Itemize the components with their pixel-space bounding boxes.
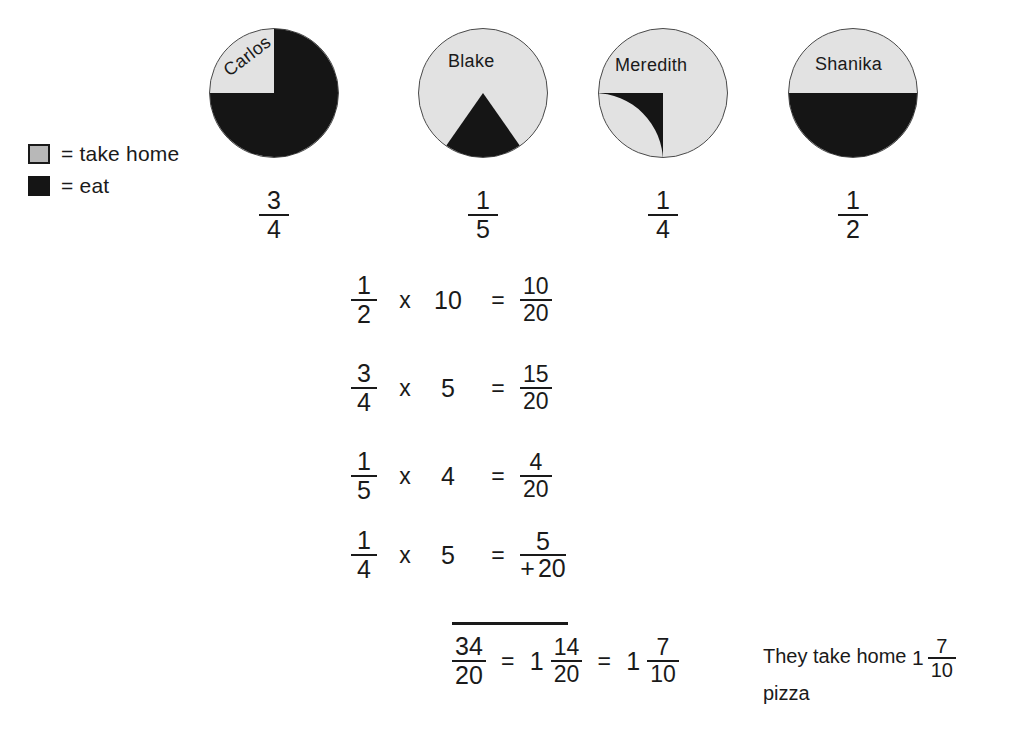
answer-line: 34 20 = 1 14 20 = 1 7 10 xyxy=(452,634,679,688)
equation-row-1: 1 2 x 10 = 10 20 xyxy=(338,256,566,344)
fraction-denominator: 2 xyxy=(843,216,863,242)
equation-denominator: 2 xyxy=(354,301,374,327)
fraction-denominator: 4 xyxy=(653,216,673,242)
mixed-number-1: 1 14 20 xyxy=(530,636,583,686)
fraction-numerator: 1 xyxy=(653,188,673,214)
sentence-lead: They take home xyxy=(763,645,906,667)
pie-slices-blake xyxy=(419,29,547,157)
equation-denominator: 5 xyxy=(354,477,374,503)
multiply-sign: x xyxy=(390,287,420,314)
slice-eat-shanika xyxy=(789,93,917,157)
black-square-icon xyxy=(28,176,50,196)
sum-numerator: 34 xyxy=(452,634,486,660)
pie-slices-shanika xyxy=(789,29,917,157)
legend-item-take-home: = take home xyxy=(28,138,179,170)
multiply-sign: x xyxy=(390,542,420,569)
fraction-numerator: 1 xyxy=(473,188,493,214)
pie-chart-shanika: Shanika xyxy=(788,28,918,158)
equation-numerator: 1 xyxy=(354,449,374,475)
equals-sign-2: = xyxy=(582,648,626,675)
slice-eat-meredith xyxy=(599,93,663,157)
multiply-sign: x xyxy=(390,463,420,490)
equation-factor: 4 xyxy=(420,462,476,491)
equation-denominator: 4 xyxy=(354,556,374,582)
pie-group-shanika: Shanika 1 2 xyxy=(788,28,918,158)
equals-sign: = xyxy=(476,287,520,314)
legend: = take home = eat xyxy=(28,138,179,202)
pie-fraction-carlos: 3 4 xyxy=(209,188,339,242)
pie-fraction-shanika: 1 2 xyxy=(788,188,918,242)
pie-chart-blake: Blake xyxy=(418,28,548,158)
equation-row-2: 3 4 x 5 = 15 20 xyxy=(338,344,566,432)
worksheet-canvas: = take home = eat Carlos 3 4 xyxy=(0,0,1012,730)
sum-rule-line xyxy=(452,622,568,625)
sentence-denominator: 10 xyxy=(928,659,956,680)
equation-row-4: 1 4 x 5 = 5 + 20 xyxy=(338,520,566,590)
plus-sign: + xyxy=(520,556,535,581)
addend-stack: 5 + 20 xyxy=(520,529,566,581)
fraction-numerator: 3 xyxy=(264,188,284,214)
gray-square-icon xyxy=(28,144,50,164)
pie-fraction-blake: 1 5 xyxy=(418,188,548,242)
pie-chart-meredith: Meredith xyxy=(598,28,728,158)
sentence-whole: 1 xyxy=(912,645,924,671)
multiply-sign: x xyxy=(390,375,420,402)
equation-numerator: 1 xyxy=(354,273,374,299)
mixed-numerator: 7 xyxy=(654,636,673,660)
equation-factor: 5 xyxy=(420,541,476,570)
pie-label-shanika: Shanika xyxy=(815,54,882,75)
mixed-whole: 1 xyxy=(530,647,544,676)
equals-sign: = xyxy=(476,463,520,490)
pie-label-meredith: Meredith xyxy=(615,55,687,76)
equals-sign: = xyxy=(476,375,520,402)
equation-list: 1 2 x 10 = 10 20 3 4 x 5 = 15 xyxy=(338,256,566,590)
slice-eat-blake xyxy=(444,93,523,157)
result-numerator: 15 xyxy=(520,363,552,387)
sentence-numerator: 7 xyxy=(933,636,950,657)
pie-label-blake: Blake xyxy=(448,51,495,72)
equals-sign-1: = xyxy=(486,648,530,675)
mixed-denominator: 20 xyxy=(551,662,583,686)
sum-denominator: 20 xyxy=(452,662,486,688)
pie-fraction-meredith: 1 4 xyxy=(598,188,728,242)
result-denominator: 20 xyxy=(520,477,552,501)
result-denominator: 20 xyxy=(520,301,552,325)
equation-factor: 10 xyxy=(420,286,476,315)
legend-label-take-home: = take home xyxy=(61,142,179,166)
pie-group-meredith: Meredith 1 4 xyxy=(598,28,728,158)
mixed-denominator: 10 xyxy=(647,662,679,686)
result-numerator: 4 xyxy=(526,451,545,475)
answer-sentence: They take home 1 7 10 pizza xyxy=(763,636,1012,706)
pie-chart-carlos: Carlos xyxy=(209,28,339,158)
mixed-number-2: 1 7 10 xyxy=(626,636,679,686)
fraction-denominator: 5 xyxy=(473,216,493,242)
result-denominator: 20 xyxy=(520,389,552,413)
result-numerator: 5 xyxy=(536,529,550,554)
legend-label-eat: = eat xyxy=(61,174,109,198)
result-denominator: 20 xyxy=(538,556,566,581)
fraction-denominator: 4 xyxy=(264,216,284,242)
mixed-numerator: 14 xyxy=(551,636,583,660)
mixed-whole: 1 xyxy=(626,647,640,676)
pie-group-blake: Blake 1 5 xyxy=(418,28,548,158)
equation-numerator: 1 xyxy=(354,528,374,554)
sum-fraction: 34 20 xyxy=(452,634,486,688)
sentence-trail: pizza xyxy=(763,680,1012,706)
legend-item-eat: = eat xyxy=(28,170,179,202)
equals-sign: = xyxy=(476,542,520,569)
pie-slices-meredith xyxy=(599,29,727,157)
equation-numerator: 3 xyxy=(354,361,374,387)
sentence-mixed-number: 1 7 10 xyxy=(912,636,956,680)
pie-group-carlos: Carlos 3 4 xyxy=(209,28,339,158)
equation-row-3: 1 5 x 4 = 4 20 xyxy=(338,432,566,520)
result-numerator: 10 xyxy=(520,275,552,299)
equation-factor: 5 xyxy=(420,374,476,403)
equation-denominator: 4 xyxy=(354,389,374,415)
fraction-numerator: 1 xyxy=(843,188,863,214)
